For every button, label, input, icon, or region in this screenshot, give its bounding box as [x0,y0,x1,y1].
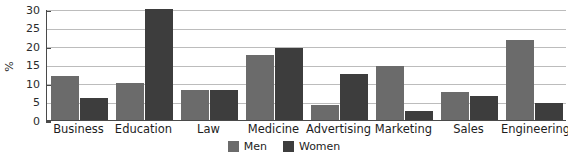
bar [506,40,534,120]
bar-group-container [47,10,566,120]
bar [340,74,368,120]
bar [80,98,108,120]
bar [405,111,433,120]
x-axis-label-engineering: Engineering [501,122,566,137]
legend-label: Women [299,141,340,152]
y-axis-tick-label: 15 [18,60,40,71]
x-axis-label-sales: Sales [436,122,501,137]
x-axis-label-marketing: Marketing [371,122,436,137]
legend-label: Men [244,141,267,152]
bar [311,105,339,120]
bar [210,90,238,120]
y-axis-tick-label: 30 [18,5,40,16]
bar [145,9,173,120]
y-axis-tick-label: 10 [18,79,40,90]
y-axis-tick-labels: 051015202530 [16,0,40,130]
legend-item-women[interactable]: Women [283,141,340,152]
legend-item-men[interactable]: Men [228,141,267,152]
x-axis-label-education: Education [111,122,176,137]
x-axis-label-law: Law [176,122,241,137]
legend-swatch-men-icon [228,141,239,152]
x-axis-label-advertising: Advertising [306,122,371,137]
bar-chart: % 051015202530 BusinessEducationLawMedic… [0,0,568,156]
chart-legend: MenWomen [0,139,568,153]
y-axis-title: % [3,60,16,74]
y-axis-tick-label: 0 [18,116,40,127]
bar [441,92,469,120]
y-axis-tick-label: 20 [18,42,40,53]
plot-area [46,10,566,121]
x-axis-label-business: Business [46,122,111,137]
bar [181,90,209,120]
bar [246,55,274,120]
bar [116,83,144,120]
y-axis-tick-label: 5 [18,97,40,108]
bar [535,103,563,120]
x-axis-label-medicine: Medicine [241,122,306,137]
x-axis-category-labels: BusinessEducationLawMedicineAdvertisingM… [46,122,566,138]
bar [51,76,79,120]
bar [470,96,498,120]
bar [376,66,404,120]
y-axis-tick-label: 25 [18,23,40,34]
legend-swatch-women-icon [283,141,294,152]
bar [275,48,303,120]
